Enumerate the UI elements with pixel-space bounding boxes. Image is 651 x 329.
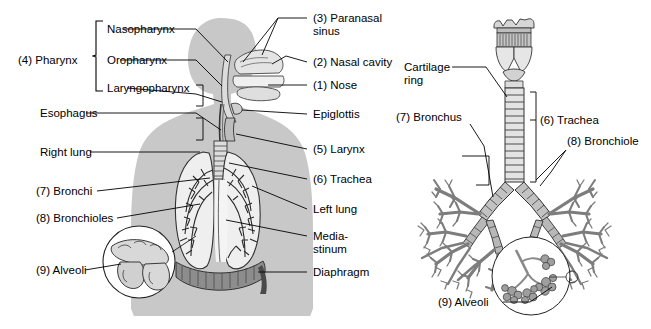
label-mediastinum-line1: Media- (313, 230, 348, 243)
label-larynx: (5) Larynx (313, 143, 365, 156)
label-pharynx: (4) Pharynx (18, 54, 77, 67)
label-bronchus: (7) Bronchus (396, 111, 462, 124)
respiratory-system-figure: (4) Pharynx Nasopharynx Oropharynx Laryn… (0, 0, 651, 329)
pharynx-brace (92, 20, 104, 92)
label-cartilage-ring-line1: Cartilage (404, 61, 450, 74)
label-alveoli: (9) Alveoli (36, 264, 87, 277)
label-nasal-cavity: (2) Nasal cavity (313, 56, 392, 69)
trachea-right-figure (505, 88, 524, 182)
larynx-right-figure (494, 19, 534, 88)
label-right-lung: Right lung (40, 146, 92, 159)
label-bronchiole: (8) Bronchiole (567, 135, 639, 148)
label-oropharynx: Oropharynx (107, 54, 167, 67)
label-mediastinum-line2: stinum (313, 243, 347, 256)
label-bronchi: (7) Bronchi (36, 185, 92, 198)
label-epiglottis: Epiglottis (313, 108, 360, 121)
label-bronchioles: (8) Bronchioles (36, 212, 113, 225)
label-diaphragm: Diaphragm (313, 266, 369, 279)
label-nose: (1) Nose (313, 79, 357, 92)
label-nasopharynx: Nasopharynx (107, 23, 175, 36)
label-laryngopharynx: Laryngopharynx (107, 82, 189, 95)
label-cartilage-ring-line2: ring (404, 74, 423, 87)
label-trachea-right-fig: (6) Trachea (540, 114, 599, 127)
label-alveoli-right-fig: (9) Alveoli (438, 296, 489, 309)
alveoli-inset-right (492, 237, 578, 315)
label-trachea-left-fig: (6) Trachea (313, 173, 372, 186)
label-paranasal-sinus-line1: (3) Paranasal (313, 12, 382, 25)
label-left-lung: Left lung (313, 203, 357, 216)
label-paranasal-sinus-line2: sinus (313, 25, 340, 38)
label-esophagus: Esophagus (40, 107, 98, 120)
